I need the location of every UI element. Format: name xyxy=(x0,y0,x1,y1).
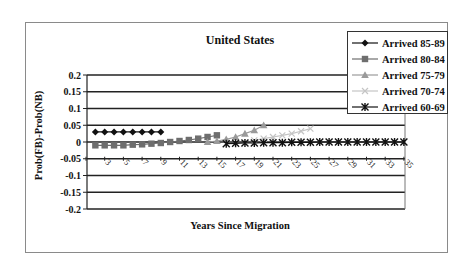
series-arrived-60-69 xyxy=(223,138,408,148)
y-tick-label: 0.1 xyxy=(69,103,82,114)
y-tick-label: -0.1 xyxy=(65,170,81,181)
legend-label: Arrived 60-69 xyxy=(382,102,445,113)
star-marker-icon xyxy=(352,102,378,112)
legend-label: Arrived 75-79 xyxy=(382,70,445,81)
x-marker-icon xyxy=(352,86,378,96)
y-tick-label: 0.15 xyxy=(64,86,82,97)
y-tick-label: 0.2 xyxy=(69,70,82,81)
y-tick-label: -0.2 xyxy=(65,204,81,215)
legend-item: Arrived 85-89 xyxy=(348,35,447,51)
y-tick-label: -0.15 xyxy=(60,187,81,198)
y-tick-label: -0.05 xyxy=(60,153,81,164)
legend-label: Arrived 85-89 xyxy=(382,38,445,49)
square-marker-icon xyxy=(352,54,378,64)
legend-item: Arrived 60-69 xyxy=(348,99,447,115)
legend: Arrived 85-89Arrived 80-84Arrived 75-79A… xyxy=(347,31,448,114)
legend-item: Arrived 75-79 xyxy=(348,67,447,83)
diamond-marker-icon xyxy=(352,38,378,48)
legend-label: Arrived 70-74 xyxy=(382,86,445,97)
triangle-marker-icon xyxy=(352,70,378,80)
y-tick-label: 0 xyxy=(76,137,81,148)
legend-item: Arrived 70-74 xyxy=(348,83,447,99)
series-arrived-80-84 xyxy=(92,132,220,148)
legend-label: Arrived 80-84 xyxy=(382,54,445,65)
series-arrived-85-89 xyxy=(92,128,164,135)
legend-item: Arrived 80-84 xyxy=(348,51,447,67)
y-tick-label: 0.05 xyxy=(64,120,82,131)
